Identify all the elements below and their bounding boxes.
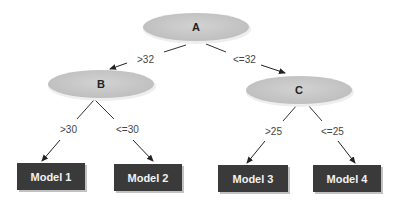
- edge-a-b-lower: [110, 63, 127, 69]
- node-a-label: A: [192, 21, 200, 33]
- edge-c-m4-lower: [338, 141, 355, 163]
- edge-c-m4-upper: [308, 105, 322, 121]
- edge-label-c-m4: <=25: [321, 126, 344, 137]
- edge-a-c-lower: [261, 65, 285, 73]
- leaf-model-2-label: Model 2: [128, 172, 169, 184]
- leaf-model-1-label: Model 1: [31, 171, 72, 183]
- edge-b-m1-upper: [77, 100, 94, 119]
- edge-a-b-upper: [164, 45, 186, 52]
- edge-label-a-c: <=32: [233, 54, 256, 65]
- edge-c-m3-upper: [283, 105, 297, 121]
- edge-label-b-m1: >30: [60, 124, 77, 135]
- node-b-label: B: [97, 78, 105, 90]
- edge-b-m2-lower: [133, 140, 153, 161]
- node-c: C: [246, 76, 354, 107]
- leaf-model-4: Model 4: [313, 165, 383, 194]
- leaf-model-1: Model 1: [17, 163, 87, 192]
- leaf-model-2: Model 2: [114, 164, 184, 193]
- node-b: B: [48, 70, 156, 101]
- edge-b-m2-upper: [95, 100, 114, 119]
- leaf-model-3-label: Model 3: [233, 173, 274, 185]
- decision-tree-diagram: >32 <=32 >30 <=30 >25 <=25 A B C Model 1…: [0, 0, 396, 206]
- edge-label-a-b: >32: [137, 54, 154, 65]
- node-c-label: C: [295, 84, 303, 96]
- edge-b-m1-lower: [42, 140, 60, 161]
- edge-label-b-m2: <=30: [116, 124, 139, 135]
- leaf-model-4-label: Model 4: [327, 173, 369, 185]
- edge-label-c-m3: >25: [265, 126, 282, 137]
- node-a: A: [143, 13, 251, 44]
- edge-a-c-upper: [206, 44, 226, 52]
- edge-c-m3-lower: [247, 141, 265, 163]
- leaf-model-3: Model 3: [218, 165, 290, 194]
